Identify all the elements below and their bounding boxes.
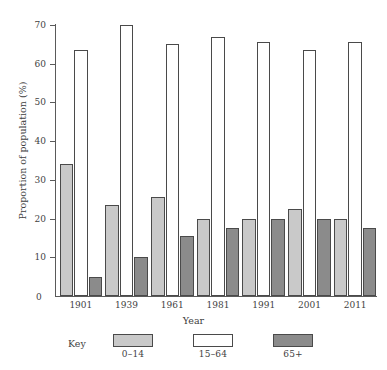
bar [334, 219, 348, 296]
bar [348, 42, 362, 296]
bar [166, 44, 180, 296]
legend-swatch [193, 334, 233, 347]
legend-item: 15–64 [185, 334, 241, 359]
bar [271, 219, 285, 296]
y-axis-zero-label: 0 [36, 292, 42, 302]
x-axis-tick-label: 1981 [195, 300, 241, 310]
legend-swatch [113, 334, 153, 347]
bar [151, 197, 165, 296]
y-axis-tick [50, 257, 55, 258]
bar [242, 219, 256, 296]
y-axis-tick-label: 70 [6, 21, 46, 30]
x-axis-tick-label: 1961 [149, 300, 195, 310]
x-axis-tick-label: 2011 [332, 300, 378, 310]
bar [120, 25, 134, 296]
chart-legend: Key 0–1415–6465+ [0, 334, 387, 368]
bar [363, 228, 377, 296]
y-axis-tick [50, 141, 55, 142]
bar [317, 219, 331, 296]
y-axis-tick [50, 219, 55, 220]
legend-title: Key [68, 338, 86, 349]
plot-area [56, 25, 376, 296]
legend-label: 65+ [265, 349, 321, 359]
legend-label: 15–64 [185, 349, 241, 359]
legend-item: 0–14 [105, 334, 161, 359]
y-axis-tick [50, 102, 55, 103]
x-axis-tick-label: 1991 [241, 300, 287, 310]
x-axis-line [55, 296, 377, 297]
legend-swatch [273, 334, 313, 347]
x-axis-title: Year [0, 315, 387, 326]
bar [60, 164, 74, 296]
bar [180, 236, 194, 296]
bar [257, 42, 271, 296]
bar [74, 50, 88, 296]
bar [226, 228, 240, 296]
y-axis-tick [50, 180, 55, 181]
bar [134, 257, 148, 296]
bar [89, 277, 103, 296]
y-axis-tick [50, 25, 55, 26]
bar [197, 219, 211, 296]
bar [211, 37, 225, 296]
bar [303, 50, 317, 296]
legend-item: 65+ [265, 334, 321, 359]
bar-chart-figure: 10203040506070 Proportion of population … [0, 0, 387, 370]
bar [105, 205, 119, 296]
bars-layer [56, 25, 376, 296]
x-axis-tick-label: 2001 [286, 300, 332, 310]
y-axis-title: Proportion of population (%) [17, 41, 28, 261]
legend-label: 0–14 [105, 349, 161, 359]
x-axis-tick-label: 1901 [58, 300, 104, 310]
bar [288, 209, 302, 296]
y-axis-tick [50, 64, 55, 65]
x-axis-tick-label: 1939 [104, 300, 150, 310]
